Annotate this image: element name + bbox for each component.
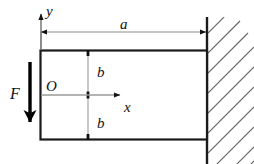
label-dimension-b-top: b <box>97 65 105 80</box>
label-origin: O <box>46 79 57 94</box>
beam-diagram-figure: a y x O F b b <box>0 0 254 164</box>
wall-hatching <box>208 9 254 164</box>
label-axis-x: x <box>124 100 131 115</box>
label-dimension-a: a <box>120 17 128 32</box>
label-force: F <box>10 86 20 102</box>
label-dimension-b-bottom: b <box>97 116 105 131</box>
dimension-tick-b-top <box>87 50 90 56</box>
dimension-tick-b-bottom <box>87 134 90 140</box>
label-axis-y: y <box>46 4 53 19</box>
